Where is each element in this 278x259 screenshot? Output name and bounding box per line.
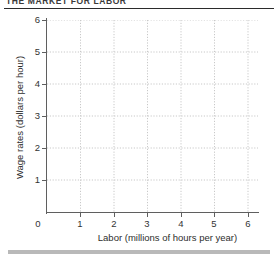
x-tick-label-4: 4 (173, 218, 189, 230)
figure-container: THE MARKET FOR LABOR 6 5 4 (0, 0, 278, 259)
y-tick-label-1: 1 (26, 174, 40, 185)
x-tick-label-3: 3 (139, 218, 155, 230)
plot-area (47, 20, 258, 212)
y-tick-label-2: 2 (26, 142, 40, 153)
y-axis-line (46, 18, 47, 214)
y-axis-title: Wage rates (dollars per hour) (14, 33, 25, 203)
figure-title: THE MARKET FOR LABOR (6, 0, 272, 5)
y-tick-label-5: 5 (26, 46, 40, 57)
x-tick-1 (80, 213, 81, 217)
x-axis-line (46, 212, 259, 213)
footer-bar (8, 250, 270, 254)
x-tick-label-1: 1 (72, 218, 88, 230)
x-tick-label-6: 6 (240, 218, 256, 230)
y-tick-4 (42, 84, 46, 85)
x-tick-label-2: 2 (106, 218, 122, 230)
y-tick-label-6: 6 (26, 14, 40, 25)
x-tick-6 (248, 213, 249, 217)
y-tick-1 (42, 180, 46, 181)
y-tick-label-4: 4 (26, 78, 40, 89)
x-tick-label-5: 5 (206, 218, 222, 230)
grid-lines (47, 20, 258, 212)
x-tick-2 (114, 213, 115, 217)
title-divider (4, 8, 274, 9)
y-tick-label-3: 3 (26, 110, 40, 121)
x-tick-4 (181, 213, 182, 217)
y-tick-2 (42, 148, 46, 149)
x-axis-title: Labor (millions of hours per year) (60, 232, 275, 243)
y-tick-6 (42, 20, 46, 21)
x-tick-5 (214, 213, 215, 217)
y-tick-3 (42, 116, 46, 117)
x-tick-label-0: 0 (30, 218, 46, 230)
x-tick-3 (147, 213, 148, 217)
y-tick-5 (42, 52, 46, 53)
